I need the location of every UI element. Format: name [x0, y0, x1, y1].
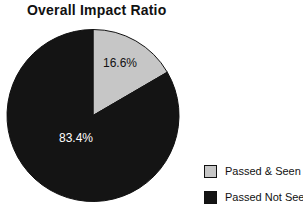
legend: Passed & Seen Passed Not Seen [204, 164, 303, 214]
pie-chart [6, 27, 180, 204]
legend-swatch-passed-not-seen [204, 191, 217, 204]
legend-label-passed-seen: Passed & Seen [225, 165, 301, 177]
legend-label-passed-not-seen: Passed Not Seen [225, 191, 303, 203]
slice-value-label-passed-not-seen: 83.4% [59, 132, 93, 144]
legend-item-passed-seen: Passed & Seen [204, 164, 303, 178]
pie-chart-figure: Overall Impact Ratio 16.6% 83.4% Passed … [0, 0, 303, 214]
legend-swatch-passed-seen [204, 165, 217, 178]
slice-value-label-passed-seen: 16.6% [103, 57, 137, 69]
legend-item-passed-not-seen: Passed Not Seen [204, 190, 303, 204]
chart-title: Overall Impact Ratio [27, 2, 166, 18]
